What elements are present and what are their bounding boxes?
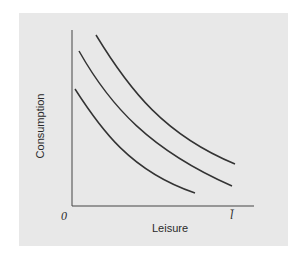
leisure-max-label: l̄ bbox=[230, 208, 233, 223]
indifference-curve-mid bbox=[79, 51, 232, 186]
x-axis-label: Leisure bbox=[120, 222, 220, 234]
y-axis-label: Consumption bbox=[34, 56, 46, 196]
indifference-curve-low bbox=[75, 89, 195, 193]
origin-label: 0 bbox=[61, 209, 67, 224]
